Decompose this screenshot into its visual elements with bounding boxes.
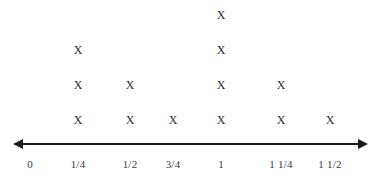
axis-tick-label: 3/4 <box>166 158 181 170</box>
axis-tick-label: 1/2 <box>123 158 138 170</box>
x-mark-icon: X <box>74 79 83 91</box>
x-mark-icon: X <box>277 79 286 91</box>
x-mark-icon: X <box>217 114 226 126</box>
x-mark-icon: X <box>217 44 226 56</box>
dot-plot-figure: XXXXXXXXXXXXX 01/41/23/411 1/41 1/2 <box>0 0 378 185</box>
x-mark-icon: X <box>277 114 286 126</box>
x-mark-icon: X <box>74 114 83 126</box>
axis-tick-label: 1/4 <box>71 158 86 170</box>
x-mark-icon: X <box>74 44 83 56</box>
axis-tick-label: 0 <box>27 158 33 170</box>
x-mark-icon: X <box>126 79 135 91</box>
x-mark-icon: X <box>217 79 226 91</box>
axis-tick-label: 1 1/2 <box>318 158 341 170</box>
axis-tick-label: 1 <box>218 158 224 170</box>
x-mark-icon: X <box>169 114 178 126</box>
x-mark-icon: X <box>126 114 135 126</box>
x-mark-icon: X <box>217 9 226 21</box>
axis-tick-label: 1 1/4 <box>269 158 292 170</box>
axis-right-arrow-icon <box>358 139 368 149</box>
x-mark-icon: X <box>326 114 335 126</box>
number-line-axis <box>21 143 360 145</box>
